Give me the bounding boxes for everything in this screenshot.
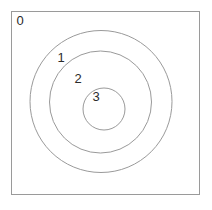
label-0: 0 — [16, 13, 23, 28]
label-3: 3 — [92, 89, 99, 104]
diagram-canvas: 0 1 2 3 — [0, 0, 212, 210]
label-1: 1 — [57, 50, 64, 65]
outer-frame-border — [12, 12, 200, 195]
label-2: 2 — [74, 71, 81, 86]
concentric-circles-diagram: 0 1 2 3 — [0, 0, 212, 210]
